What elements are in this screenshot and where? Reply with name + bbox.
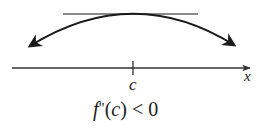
condition-rest: < 0: [127, 98, 158, 120]
point-label-c: c: [129, 75, 137, 94]
condition-c: c: [111, 98, 120, 120]
condition-close: ): [120, 98, 127, 121]
axis-label-x: x: [243, 68, 251, 84]
concavity-condition: f"(c) < 0: [93, 98, 158, 121]
concave-down-curve: [30, 14, 234, 46]
concavity-diagram: c x f"(c) < 0: [0, 0, 257, 130]
